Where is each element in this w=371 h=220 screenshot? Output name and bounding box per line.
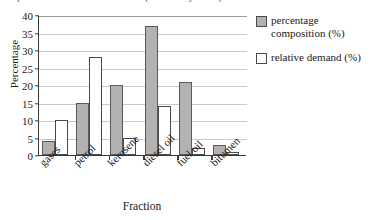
legend-swatch-relative-demand [256, 53, 267, 64]
bar-group [179, 15, 213, 155]
caption-sliver-text: composition and relative demand for the … [0, 0, 371, 3]
legend-swatch-percentage-composition [256, 16, 267, 27]
bar-group [76, 15, 110, 155]
y-tick-label: 35 [22, 28, 39, 39]
x-category: diesel oil [144, 158, 178, 202]
y-tick-label: 30 [22, 46, 39, 57]
y-tick-label: 40 [22, 11, 39, 22]
bar [145, 26, 158, 156]
x-axis-title: Fraction [38, 200, 246, 212]
bar-group [145, 15, 179, 155]
bar-group [110, 15, 144, 155]
bar-chart-figure: composition and relative demand for the … [0, 0, 371, 220]
bar-series-container [39, 15, 247, 155]
y-tick-label: 25 [22, 63, 39, 74]
legend-label: percentage composition (%) [271, 14, 371, 40]
y-tick-label: 20 [22, 81, 39, 92]
bar-group [42, 15, 76, 155]
plot-area: 0510152025303540 [38, 16, 246, 156]
x-category: fuel oil [178, 158, 212, 202]
chart-legend: percentage composition (%) relative dema… [256, 14, 371, 75]
legend-label: relative demand (%) [271, 51, 361, 64]
x-category: kerosene [109, 158, 143, 202]
x-axis-category-labels: gasespetrolkerosenediesel oilfuel oilbit… [38, 158, 246, 202]
bar [89, 57, 102, 155]
y-tick-label: 10 [22, 116, 39, 127]
x-category: bitumen [212, 158, 246, 202]
legend-item: relative demand (%) [256, 51, 371, 64]
y-axis-title: Percentage [8, 14, 20, 114]
bar-group [213, 15, 247, 155]
y-tick-label: 15 [22, 98, 39, 109]
x-category: petrol [75, 158, 109, 202]
legend-item: percentage composition (%) [256, 14, 371, 40]
x-category: gases [41, 158, 75, 202]
y-tick-label: 5 [28, 133, 40, 144]
